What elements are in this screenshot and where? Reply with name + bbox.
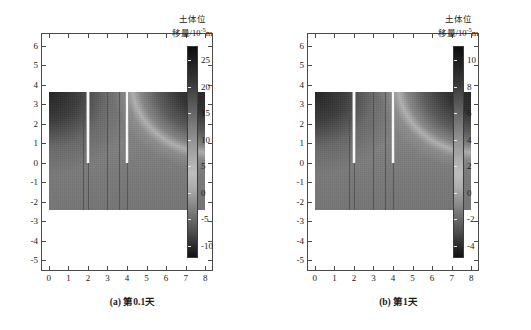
y-axis-label-b: 0 [300, 158, 305, 167]
y-tick-a [42, 182, 46, 183]
y-axis-label-a: -3 [31, 217, 39, 226]
x-tick-top-b [413, 34, 414, 38]
x-tick-top-a [68, 34, 69, 38]
colorbar-title-line1-a: 土体位 [159, 14, 225, 25]
colorbar-unit-suffix-b: m [472, 27, 479, 37]
x-axis-label-b: 7 [449, 274, 454, 283]
colorbar-a: 2520151050-5-10 [187, 46, 198, 258]
colorbar-tick-label-b: 8 [467, 82, 472, 91]
y-tick-a [42, 221, 46, 222]
y-tick-a [42, 202, 46, 203]
x-tick-a [49, 266, 50, 270]
colorbar-tick-label-a: -5 [201, 215, 209, 224]
x-tick-b [432, 266, 433, 270]
y-axis-label-b: 1 [300, 139, 305, 148]
x-tick-a [68, 266, 69, 270]
slot-left-a [86, 92, 89, 163]
block-boundary-a [107, 92, 108, 210]
y-tick-a [42, 241, 46, 242]
y-tick-b [308, 85, 312, 86]
colorbar-tick-label-b: 0 [467, 188, 472, 197]
y-tick-b [308, 124, 312, 125]
x-tick-a [127, 266, 128, 270]
colorbar-tick-label-a: 25 [201, 56, 210, 65]
colorbar-gradient-b [454, 47, 463, 257]
x-axis-label-b: 3 [371, 274, 376, 283]
colorbar-tick-b [454, 193, 457, 194]
x-axis-label-a: 1 [66, 274, 71, 283]
x-tick-b [452, 266, 453, 270]
colorbar-tick-a [188, 246, 191, 247]
y-tick-b [308, 260, 312, 261]
y-tick-b [308, 65, 312, 66]
x-tick-b [354, 266, 355, 270]
colorbar-title-a: 土体位 移量/10-5m [159, 14, 225, 38]
y-axis-label-a: -2 [31, 197, 39, 206]
y-tick-b [308, 163, 312, 164]
y-tick-right-a [208, 104, 212, 105]
colorbar-title-b: 土体位 移量/10-5m [425, 14, 491, 38]
y-axis-label-b: 3 [300, 100, 305, 109]
x-axis-label-a: 5 [144, 274, 149, 283]
colorbar-tick-b [454, 60, 457, 61]
y-axis-label-a: 6 [34, 41, 39, 50]
y-tick-b [308, 46, 312, 47]
x-tick-top-a [147, 34, 148, 38]
colorbar-tick-b [454, 140, 457, 141]
y-tick-right-b [474, 163, 478, 164]
slot-left-tail-b [354, 163, 355, 210]
block-boundary-b [373, 92, 374, 210]
block-boundary-b [385, 92, 386, 210]
y-tick-right-b [474, 104, 478, 105]
colorbar-unit-suffix-a: m [206, 27, 213, 37]
x-axis-label-b: 5 [410, 274, 415, 283]
y-tick-right-a [208, 163, 212, 164]
colorbar-tick-label-b: 2 [467, 162, 472, 171]
colorbar-tick-label-b: 4 [467, 135, 472, 144]
colorbar-title-line2-a: 移量/10-5m [159, 25, 225, 38]
colorbar-tick-a [188, 193, 191, 194]
colorbar-tick-label-a: 20 [201, 82, 210, 91]
colorbar-title-line1-b: 土体位 [425, 14, 491, 25]
x-tick-b [315, 266, 316, 270]
x-axis-label-a: 4 [125, 274, 130, 283]
y-tick-right-a [208, 124, 212, 125]
y-tick-right-b [474, 46, 478, 47]
colorbar-tick-b [454, 113, 457, 114]
panel-a: 6543210-1-2-3-4-5012345678 2520151050-5-… [0, 0, 265, 330]
y-axis-label-b: -2 [297, 197, 305, 206]
y-tick-right-b [474, 85, 478, 86]
colorbar-tick-a [188, 60, 191, 61]
panel-b: 6543210-1-2-3-4-5012345678 1086420-2-4 土… [266, 0, 531, 330]
x-axis-label-a: 8 [203, 274, 208, 283]
panel-caption-b: (b) 第1天 [266, 297, 531, 308]
colorbar-tick-label-a: 10 [201, 135, 210, 144]
x-axis-label-b: 4 [391, 274, 396, 283]
x-tick-b [471, 266, 472, 270]
y-tick-a [42, 46, 46, 47]
colorbar-unit-prefix-b: 移量/10 [438, 27, 467, 37]
y-tick-a [42, 143, 46, 144]
x-tick-a [186, 266, 187, 270]
x-tick-a [205, 266, 206, 270]
y-axis-label-a: 1 [34, 139, 39, 148]
x-tick-top-a [107, 34, 108, 38]
y-tick-right-a [208, 65, 212, 66]
colorbar-gradient-a [188, 47, 197, 257]
colorbar-tick-label-a: 0 [201, 188, 206, 197]
y-tick-right-a [208, 182, 212, 183]
y-axis-label-a: 3 [34, 100, 39, 109]
y-axis-label-a: -5 [31, 256, 39, 265]
y-tick-right-b [474, 143, 478, 144]
x-tick-a [147, 266, 148, 270]
y-tick-a [42, 65, 46, 66]
colorbar-tick-b [454, 166, 457, 167]
x-tick-top-a [127, 34, 128, 38]
y-tick-b [308, 104, 312, 105]
y-axis-label-a: 0 [34, 158, 39, 167]
slot-right-b [391, 92, 394, 163]
y-tick-a [42, 124, 46, 125]
block-boundary-b [349, 92, 350, 210]
y-tick-right-a [208, 260, 212, 261]
y-axis-label-b: -3 [297, 217, 305, 226]
